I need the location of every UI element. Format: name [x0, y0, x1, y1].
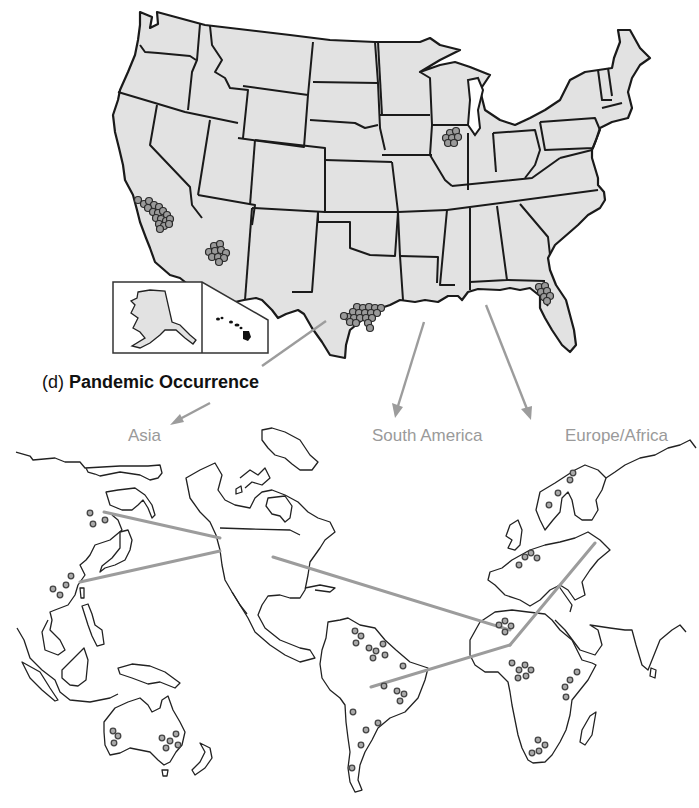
caption-prefix: (d): [42, 372, 64, 392]
world-map: [16, 428, 696, 792]
siberia-coast: [16, 452, 162, 480]
philippines: [82, 604, 104, 646]
region-label-south-america: South America: [372, 426, 483, 446]
east-asia-coast: [42, 515, 122, 655]
figure-caption: (d) Pandemic Occurrence: [42, 372, 259, 393]
pandemic-figure: [0, 0, 699, 808]
new-zealand: [192, 743, 212, 775]
greenland: [262, 428, 318, 470]
japan: [100, 530, 132, 572]
taiwan: [80, 588, 84, 598]
sri-lanka: [650, 668, 656, 678]
great-britain: [506, 520, 522, 550]
region-label-asia: Asia: [128, 426, 161, 446]
new-guinea: [118, 664, 180, 688]
borneo: [62, 648, 88, 686]
south-america: [320, 618, 428, 792]
madagascar: [580, 712, 596, 745]
north-america: [186, 463, 335, 662]
africa: [470, 610, 596, 763]
us-map: [113, 12, 650, 358]
europe-mainland: [488, 532, 610, 606]
region-label-europe-africa: Europe/Africa: [565, 426, 668, 446]
tasmania: [162, 770, 168, 776]
caption-title: Pandemic Occurrence: [69, 372, 259, 392]
